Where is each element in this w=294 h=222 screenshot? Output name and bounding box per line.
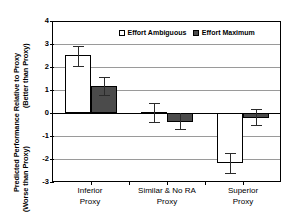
legend-label-effort-maximum: Effort Maximum xyxy=(202,29,255,36)
chart-legend: Effort Ambiguous Effort Maximum xyxy=(117,27,257,38)
errorbar-cap-bottom-similar-maximum xyxy=(175,129,186,130)
y-tick-3: 3 xyxy=(35,40,49,48)
x-category-superior-proxy-line1: Superior xyxy=(197,186,289,197)
y-tickmark-minus-3 xyxy=(50,182,54,183)
y-axis-title-group: Predicted Performance Relative to Proxy … xyxy=(0,0,30,200)
y-tickmark-minus-1 xyxy=(50,136,54,137)
errorbar-superior-ambiguous xyxy=(230,153,231,173)
errorbar-cap-top-superior-ambiguous xyxy=(225,153,236,154)
errorbar-cap-bottom-superior-ambiguous xyxy=(225,173,236,174)
y-tick-2: 2 xyxy=(35,63,49,71)
y-tickmark-1 xyxy=(50,90,54,91)
errorbar-cap-top-superior-maximum xyxy=(251,109,262,110)
y-axis-tick-labels: 4 3 2 1 0 -1 -2 -3 xyxy=(33,0,49,200)
legend-swatch-dark-icon xyxy=(193,30,199,36)
errorbar-cap-bottom-superior-maximum xyxy=(251,125,262,126)
legend-item-effort-maximum: Effort Maximum xyxy=(193,29,254,36)
errorbar-similar-maximum xyxy=(180,113,181,129)
y-tick-minus-3: -3 xyxy=(35,178,49,186)
y-axis-title-primary: Predicted Performance Relative to Proxy xyxy=(12,53,21,192)
x-category-superior-proxy-line2: Proxy xyxy=(197,197,289,208)
y-axis-title-worse: (Worse than Proxy) xyxy=(21,146,30,212)
y-tick-4: 4 xyxy=(35,17,49,25)
legend-swatch-light-icon xyxy=(119,30,125,36)
x-category-superior-proxy: Superior Proxy xyxy=(197,186,289,207)
gridline-3 xyxy=(53,44,280,45)
x-tickmark-1 xyxy=(91,181,92,185)
plot-area xyxy=(52,21,281,182)
y-tick-0: 0 xyxy=(35,109,49,117)
y-tick-1: 1 xyxy=(35,86,49,94)
errorbar-inferior-ambiguous xyxy=(78,46,79,66)
errorbar-similar-ambiguous xyxy=(154,103,155,122)
x-axis-category-labels: Inferior Proxy Similar & No RA Proxy Sup… xyxy=(52,186,281,218)
x-tickmark-3 xyxy=(167,181,168,185)
gridline-minus-2 xyxy=(53,159,280,160)
x-tickmark-2 xyxy=(129,181,130,185)
bar-chart-figure: Predicted Performance Relative to Proxy … xyxy=(0,0,294,222)
legend-item-effort-ambiguous: Effort Ambiguous xyxy=(119,29,186,36)
y-tickmark-0 xyxy=(50,113,54,114)
y-tick-minus-2: -2 xyxy=(35,155,49,163)
y-axis-title-better: (Better than Proxy) xyxy=(21,43,30,108)
x-tickmark-4 xyxy=(205,181,206,185)
errorbar-inferior-maximum xyxy=(104,77,105,95)
errorbar-cap-bottom-inferior-maximum xyxy=(99,95,110,96)
y-tickmark-2 xyxy=(50,67,54,68)
y-tickmark-minus-2 xyxy=(50,159,54,160)
gridline-minus-1 xyxy=(53,136,280,137)
errorbar-cap-top-inferior-maximum xyxy=(99,77,110,78)
errorbar-cap-top-similar-ambiguous xyxy=(149,103,160,104)
y-tickmark-3 xyxy=(50,44,54,45)
errorbar-superior-maximum xyxy=(256,109,257,125)
legend-label-effort-ambiguous: Effort Ambiguous xyxy=(128,29,187,36)
x-tickmark-5 xyxy=(243,181,244,185)
y-tick-minus-1: -1 xyxy=(35,132,49,140)
errorbar-cap-top-inferior-ambiguous xyxy=(73,46,84,47)
errorbar-cap-bottom-inferior-ambiguous xyxy=(73,66,84,67)
y-tickmark-4 xyxy=(50,21,54,22)
errorbar-cap-bottom-similar-ambiguous xyxy=(149,122,160,123)
